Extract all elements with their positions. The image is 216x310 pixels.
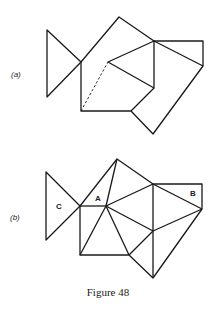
panel-a-dashed-line	[81, 62, 108, 111]
figure-caption: Figure 48	[0, 286, 216, 298]
vertex-label-a: A	[95, 194, 101, 203]
vertex-label-b: B	[190, 189, 196, 198]
panel-a-tail	[47, 30, 81, 97]
panel-a-inner-triangle	[108, 41, 154, 88]
panel-a-outline	[81, 17, 203, 134]
vertex-label-c: C	[56, 202, 62, 211]
figure-48-diagram: C A B	[0, 0, 216, 310]
panel-b-tail	[46, 172, 80, 240]
panel-a-drawing	[47, 17, 203, 134]
panel-b-outline	[80, 159, 202, 278]
panel-b-drawing	[46, 159, 202, 278]
